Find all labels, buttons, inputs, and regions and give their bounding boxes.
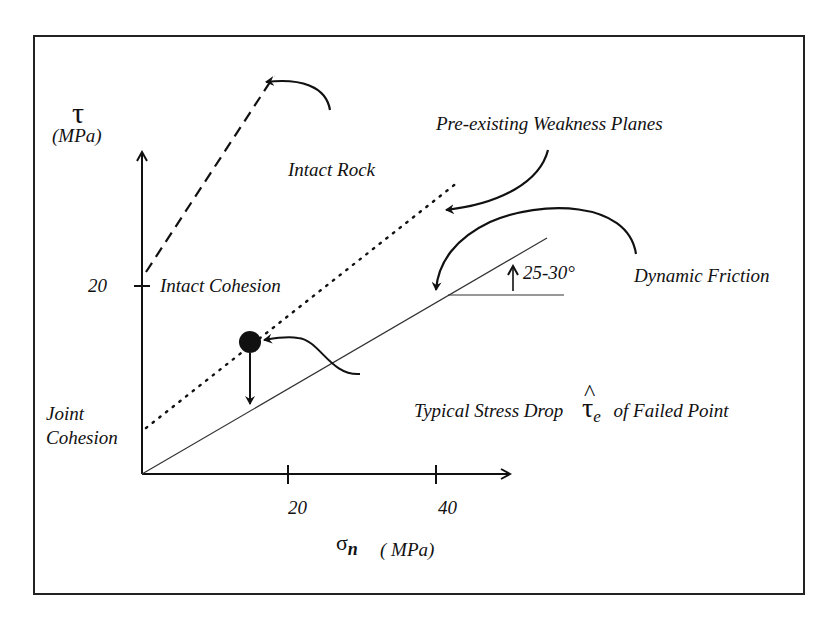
intact-cohesion-label: Intact Cohesion [160,276,281,295]
x-axis-symbol: σn [336,532,358,558]
hat-icon: ^ [584,380,595,404]
intact-rock-callout-arrow [266,81,330,110]
sigma-subscript: n [348,539,358,559]
y-axis-unit: (MPa) [52,126,102,145]
weakness-planes-line [146,182,458,428]
sigma-symbol: σ [336,530,348,555]
angle-label: 25-30° [523,263,575,282]
tau-e-symbol: ^ τe [582,394,601,425]
dynamic-friction-label: Dynamic Friction [634,266,770,285]
y-tick-label-20: 20 [88,276,107,295]
failed-point [239,331,261,353]
y-axis [134,152,150,474]
intact-rock-line [146,76,274,272]
mohr-coulomb-diagram [0,0,837,631]
weakness-planes-label: Pre-existing Weakness Planes [436,114,663,133]
intact-rock-label: Intact Rock [288,160,375,179]
stress-drop-suffix: of Failed Point [614,400,729,421]
x-tick-label-40: 40 [438,498,457,517]
joint-cohesion-label-line1: Joint [46,404,84,423]
stress-drop-label: Typical Stress Drop ^ τe of Failed Point [414,394,729,425]
x-tick-label-20: 20 [288,498,307,517]
dynamic-friction-line [142,238,547,474]
x-axis-unit: ( MPa) [380,540,434,559]
x-axis [142,465,510,484]
joint-cohesion-label-line2: Cohesion [46,428,118,447]
stress-drop-prefix: Typical Stress Drop [414,400,563,421]
y-axis-symbol: τ [72,98,84,128]
weakness-planes-callout-arrow [446,150,548,210]
